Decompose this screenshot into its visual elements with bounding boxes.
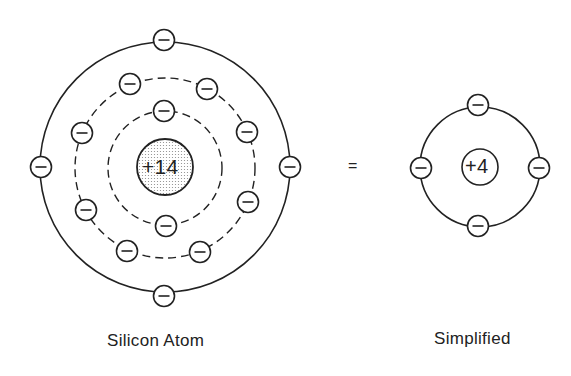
caption-simplified: Simplified (434, 329, 511, 349)
atom-diagram (0, 0, 571, 376)
caption-silicon-atom: Silicon Atom (107, 331, 204, 351)
core-label-simplified: +4 (465, 155, 488, 178)
nucleus-label-silicon: +14 (142, 155, 179, 179)
equals-sign: = (348, 157, 358, 175)
